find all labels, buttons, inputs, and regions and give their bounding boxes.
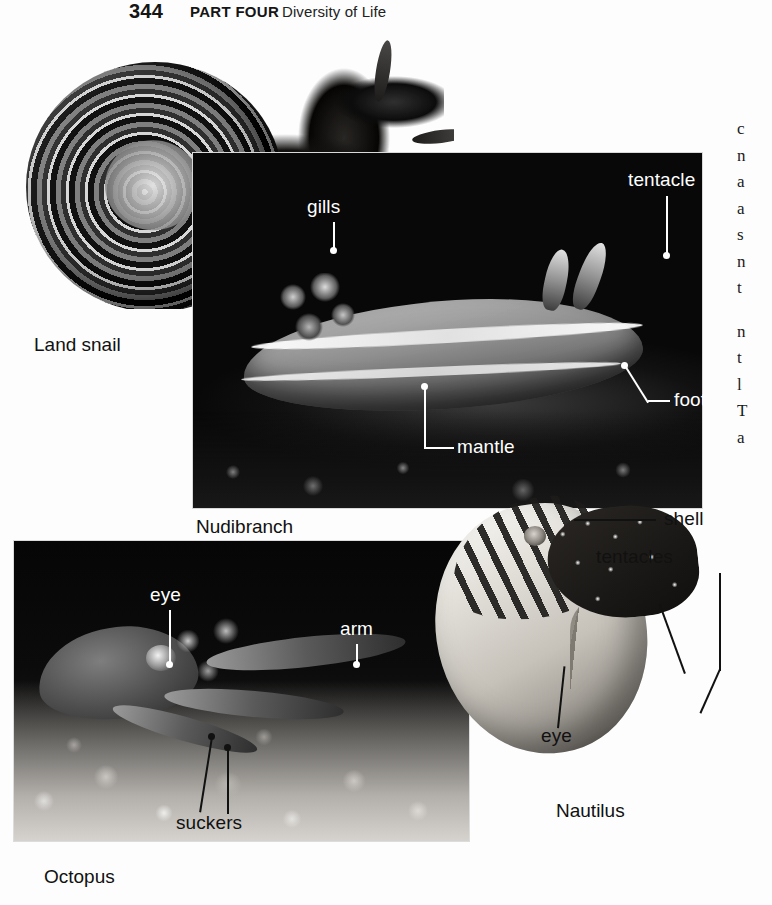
leader-line-tentacles-v <box>719 573 721 671</box>
caption-nudibranch: Nudibranch <box>196 516 293 538</box>
leader-line-mantle-h <box>424 447 454 449</box>
leader-line-mantle-v <box>424 387 426 449</box>
caption-land-snail: Land snail <box>34 334 121 356</box>
label-octopus-eye: eye <box>150 584 181 606</box>
textbook-page: 344 PART FOUR Diversity of Life Land sna… <box>0 0 772 905</box>
nudibranch-tentacle-shape-a <box>539 247 573 312</box>
caption-octopus: Octopus <box>44 866 115 888</box>
running-head: 344 PART FOUR Diversity of Life <box>0 0 772 34</box>
nautilus-tentacles-shape <box>570 598 700 748</box>
nudibranch-tentacle-shape-b <box>568 239 613 312</box>
body-text-column: c n a a s n t n t l T a t <box>737 116 772 456</box>
page-number: 344 <box>129 0 163 23</box>
label-suckers: suckers <box>176 812 242 834</box>
body-paragraph-2: n t l T a t <box>737 319 772 457</box>
leader-line-nautilus-shell <box>574 519 656 521</box>
nudibranch-gills-shape <box>273 273 359 355</box>
label-gills: gills <box>307 196 340 218</box>
leader-dot-octopus-eye <box>166 661 173 668</box>
nautilus-eye-shape <box>524 526 546 546</box>
label-octopus-arm: arm <box>340 618 373 640</box>
leader-line-gills <box>333 222 335 250</box>
label-nautilus-tentacles: tentacles <box>596 546 673 568</box>
section-title: Diversity of Life <box>282 3 386 20</box>
leader-line-tentacle <box>666 196 668 254</box>
leader-line-suckers-b <box>227 748 229 814</box>
body-paragraph-1: c n a a s n t <box>737 116 772 302</box>
label-nautilus-shell: shell <box>664 508 704 530</box>
photo-octopus <box>14 541 469 841</box>
label-nudibranch-foot: foot <box>674 389 706 411</box>
leader-dot-octopus-arm <box>353 661 360 668</box>
caption-nautilus: Nautilus <box>556 800 625 822</box>
label-mantle: mantle <box>457 436 515 458</box>
photo-nudibranch <box>193 153 702 508</box>
label-nautilus-eye: eye <box>541 725 572 747</box>
leader-line-nudibranch-foot-h <box>648 400 670 402</box>
label-tentacle: tentacle <box>628 169 695 191</box>
part-label: PART FOUR <box>190 3 279 20</box>
leader-line-octopus-eye <box>169 610 171 664</box>
